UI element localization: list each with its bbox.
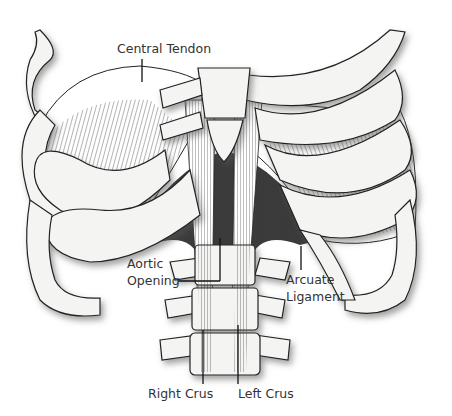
label-arcuate-ligament-line1: Arcuate [286, 271, 334, 288]
label-arcuate-ligament-line2: Ligament [286, 288, 345, 305]
label-left-crus: Left Crus [238, 385, 294, 402]
diaphragm-illustration [0, 0, 452, 416]
label-central-tendon: Central Tendon [117, 40, 211, 57]
label-right-crus: Right Crus [148, 385, 213, 402]
label-aortic-opening-line2: Opening [127, 272, 180, 289]
vertebrae [160, 245, 290, 375]
label-aortic-opening-line1: Aortic [127, 255, 163, 272]
diaphragm-diagram: Central Tendon Aortic Opening Arcuate Li… [0, 0, 452, 416]
